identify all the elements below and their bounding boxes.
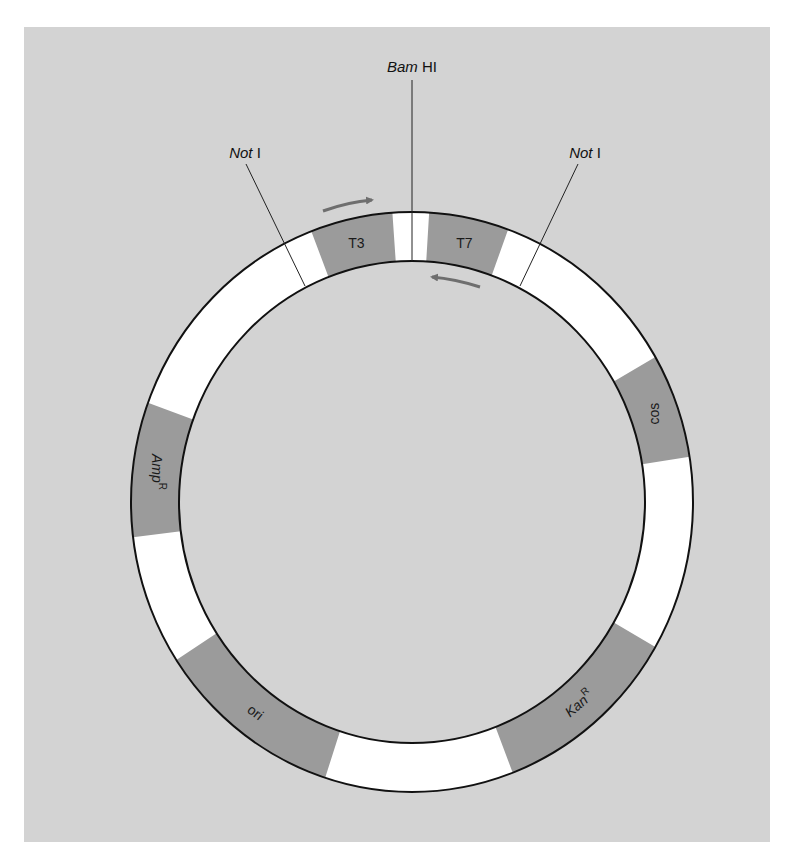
segment-label-t3: T3: [348, 235, 365, 251]
bamhi-label: Bam HI: [387, 58, 437, 75]
ring-inner-edge: [179, 261, 645, 743]
noti-right-label: Not I: [569, 144, 601, 161]
segment-label-t7: T7: [456, 235, 473, 251]
segment-label-cos: cos: [646, 403, 662, 425]
t3-promoter-arrow-icon: [323, 200, 372, 211]
noti-left-label: Not I: [229, 144, 261, 161]
plasmid-map: Bam HI Not I Not I T3T7cosKanRoriAmpR: [0, 0, 792, 862]
t7-promoter-arrow-icon: [432, 277, 480, 287]
